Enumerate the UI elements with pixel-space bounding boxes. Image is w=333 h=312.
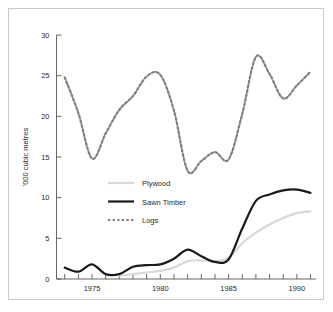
series-layer (65, 55, 311, 275)
y-tick-label: 20 (41, 112, 49, 121)
x-tick-label: 1975 (84, 284, 101, 293)
y-axis: 051015202530 (41, 31, 61, 284)
legend-label-logs: Logs (142, 216, 159, 225)
x-tick-label: 1990 (289, 284, 306, 293)
legend-label-sawn-timber: Sawn Timber (142, 198, 186, 207)
chart-figure: 051015202530 1975198019851990 PlywoodSaw… (0, 0, 333, 312)
x-tick-label: 1985 (220, 284, 237, 293)
series-line-logs (65, 55, 311, 173)
y-tick-label: 25 (41, 71, 49, 80)
y-tick-label: 0 (45, 275, 49, 284)
line-chart-canvas: 051015202530 1975198019851990 PlywoodSaw… (0, 0, 333, 312)
x-tick-label: 1980 (152, 284, 169, 293)
y-tick-label: 10 (41, 193, 49, 202)
y-tick-label: 5 (45, 234, 49, 243)
series-line-sawn-timber (65, 189, 311, 275)
y-tick-label: 30 (41, 31, 49, 40)
y-tick-label: 15 (41, 153, 49, 162)
chart-legend: PlywoodSawn TimberLogs (108, 179, 186, 225)
legend-label-plywood: Plywood (142, 179, 170, 188)
y-axis-title: '000 cubic metres (21, 127, 30, 186)
x-axis: 1975198019851990 (57, 274, 317, 293)
